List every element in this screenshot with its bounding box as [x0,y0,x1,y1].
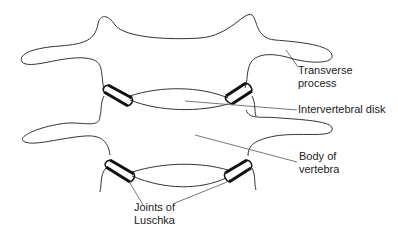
upper-vertebra-outline [21,14,332,90]
upper-right-joint-icon [225,83,252,104]
label-intervertebral-disk: Intervertebral disk [298,103,385,116]
lower-vertebra-outline [22,110,332,156]
lower-disk [132,164,228,187]
lower-right-joint-icon [224,160,251,182]
leader-body-of-vertebra [195,135,297,162]
lower-left-joint-icon [105,160,135,182]
upper-left-joint-icon [103,85,133,106]
label-body-of-vertebra: Body of vertebra [299,150,339,176]
label-transverse-process: Transverse process [298,64,353,90]
vertebrae-diagram [0,0,398,232]
leader-transverse-process [286,50,298,67]
label-joints-of-luschka: Joints of Luschka [134,201,175,227]
